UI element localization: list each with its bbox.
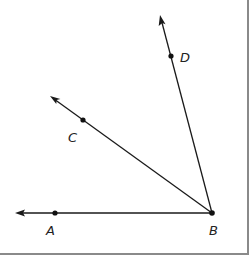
ray-bc bbox=[54, 99, 212, 213]
angle-diagram: A B C D bbox=[0, 0, 251, 262]
label-c: C bbox=[68, 130, 78, 145]
point-d bbox=[168, 53, 173, 58]
label-a: A bbox=[45, 223, 55, 238]
vertex-b bbox=[209, 210, 215, 216]
point-c bbox=[80, 117, 85, 122]
label-d: D bbox=[180, 50, 190, 65]
ray-bd bbox=[161, 20, 212, 213]
label-b: B bbox=[209, 223, 218, 238]
point-a bbox=[52, 210, 57, 215]
